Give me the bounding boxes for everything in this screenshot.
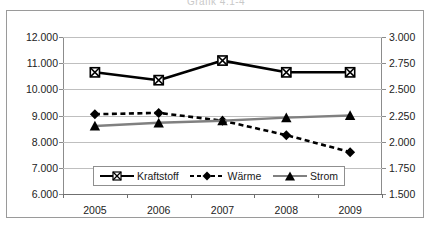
left-axis-label: 10.000 — [0, 84, 58, 94]
bottom-axis-line — [63, 194, 382, 195]
x-tick — [254, 194, 255, 198]
x-tick — [318, 194, 319, 198]
legend-label-waerme: Wärme — [227, 170, 261, 182]
legend-item-waerme: Wärme — [190, 170, 261, 182]
left-axis-label: 12.000 — [0, 32, 58, 42]
chart-frame: 6.0007.0008.0009.00010.00011.00012.000 1… — [6, 10, 424, 218]
x-axis-label: 2005 — [70, 205, 120, 216]
left-axis-label: 7.000 — [0, 163, 58, 173]
right-tick — [382, 142, 386, 143]
left-axis-label: 9.000 — [0, 111, 58, 121]
x-axis-label: 2006 — [134, 205, 184, 216]
legend-label-kraftstoff: Kraftstoff — [137, 170, 179, 182]
right-axis-label: 2.500 — [389, 84, 432, 94]
right-axis-label: 1.750 — [389, 163, 432, 173]
right-axis-label: 2.000 — [389, 137, 432, 147]
triangle-marker-icon — [273, 170, 307, 182]
diamond-marker — [90, 109, 100, 119]
x-axis-label: 2007 — [198, 205, 248, 216]
x-tick — [127, 194, 128, 198]
legend-label-strom: Strom — [310, 170, 338, 182]
legend-item-kraftstoff: Kraftstoff — [100, 170, 179, 182]
x-tick — [63, 194, 64, 198]
right-tick — [382, 89, 386, 90]
left-axis-label: 6.000 — [0, 189, 58, 199]
diamond-marker-icon — [190, 170, 224, 182]
right-axis-label: 3.000 — [389, 32, 432, 42]
x-marker-icon — [100, 170, 134, 182]
diamond-marker — [154, 108, 164, 118]
left-axis-label: 11.000 — [0, 58, 58, 68]
x-axis-label: 2009 — [325, 205, 375, 216]
right-tick — [382, 63, 386, 64]
diamond-marker — [281, 130, 291, 140]
legend-item-strom: Strom — [273, 170, 338, 182]
x-tick — [382, 194, 383, 198]
chart-legend: Kraftstoff Wärme Strom — [93, 166, 345, 186]
x-tick — [191, 194, 192, 198]
right-tick — [382, 37, 386, 38]
chart-title: Grafik 4.1-4 — [0, 0, 432, 8]
chart-root: Grafik 4.1-4 6.0007.0008.0009.00010.0001… — [0, 0, 432, 229]
right-tick — [382, 116, 386, 117]
x-axis-label: 2008 — [261, 205, 311, 216]
left-axis-label: 8.000 — [0, 137, 58, 147]
right-axis-label: 2.750 — [389, 58, 432, 68]
right-axis-label: 2.250 — [389, 111, 432, 121]
right-axis-label: 1.500 — [389, 189, 432, 199]
right-tick — [382, 168, 386, 169]
diamond-marker — [345, 147, 355, 157]
